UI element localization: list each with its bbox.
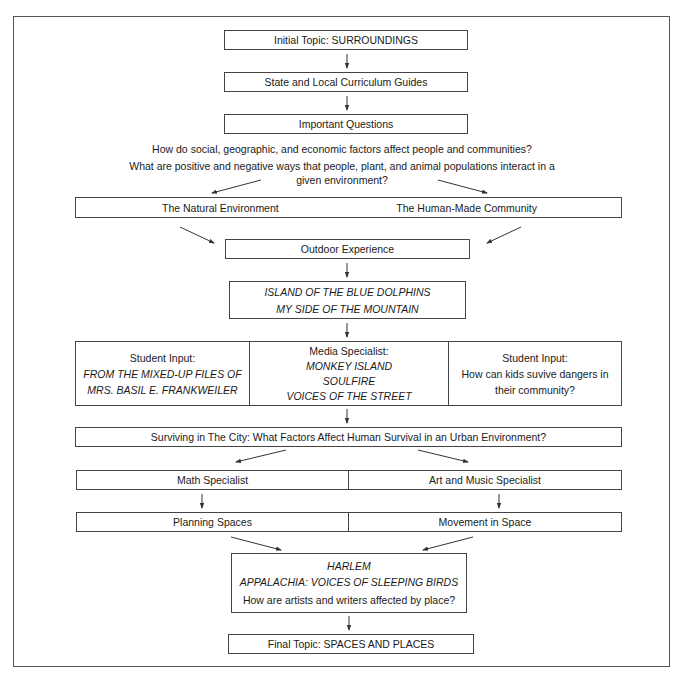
outdoor-experience-label: Outdoor Experience [301, 242, 394, 256]
important-questions-box: Important Questions [224, 114, 468, 134]
natural-environment-label: The Natural Environment [162, 201, 279, 215]
specialists-box: Math Specialist Art and Music Specialist [76, 470, 622, 490]
important-questions-label: Important Questions [299, 117, 394, 131]
books-box-1: ISLAND OF THE BLUE DOLPHINS MY SIDE OF T… [229, 281, 466, 319]
inputs-box: Student Input: FROM THE MIXED-UP FILES O… [75, 341, 622, 406]
book-voices-of-the-street: VOICES OF THE STREET [286, 389, 411, 403]
book-mixed-up-files-line-2: MRS. BASIL E. FRANKWEILER [87, 383, 237, 397]
final-topic-label: Final Topic: SPACES AND PLACES [268, 637, 435, 651]
student-input-right: Student Input: How can kids suvive dange… [448, 342, 621, 405]
math-specialist-label: Math Specialist [177, 473, 248, 487]
media-specialist: Media Specialist: MONKEY ISLAND SOULFIRE… [249, 342, 448, 405]
guiding-questions: How do social, geographic, and economic … [60, 142, 624, 187]
books-box-2: HARLEM APPALACHIA: VOICES OF SLEEPING BI… [231, 553, 467, 613]
book-my-side-of-mountain: MY SIDE OF THE MOUNTAIN [276, 302, 418, 316]
student-input-left: Student Input: FROM THE MIXED-UP FILES O… [76, 342, 249, 405]
question-2-line-2: given environment? [60, 173, 624, 187]
student-input-left-heading: Student Input: [130, 351, 195, 365]
art-music-specialist: Art and Music Specialist [348, 471, 621, 489]
activities-box: Planning Spaces Movement in Space [76, 512, 622, 532]
book-appalachia: APPALACHIA: VOICES OF SLEEPING BIRDS [240, 575, 458, 589]
surviving-city-label: Surviving in The City: What Factors Affe… [151, 430, 546, 444]
curriculum-guides-label: State and Local Curriculum Guides [265, 75, 428, 89]
initial-topic-box: Initial Topic: SURROUNDINGS [224, 30, 468, 50]
math-specialist: Math Specialist [77, 471, 348, 489]
student-question-line-1: How can kids suvive dangers in [461, 367, 608, 381]
question-2-line-1: What are positive and negative ways that… [60, 159, 624, 173]
movement-in-space-label: Movement in Space [439, 515, 532, 529]
media-specialist-heading: Media Specialist: [309, 344, 388, 358]
final-topic-box: Final Topic: SPACES AND PLACES [228, 634, 474, 654]
curriculum-guides-box: State and Local Curriculum Guides [224, 72, 468, 92]
environment-box: The Natural Environment The Human-Made C… [75, 197, 622, 218]
planning-spaces-label: Planning Spaces [173, 515, 252, 529]
book-monkey-island: MONKEY ISLAND [306, 359, 392, 373]
book-island-blue-dolphins: ISLAND OF THE BLUE DOLPHINS [264, 285, 430, 299]
human-made-community-label: The Human-Made Community [396, 201, 537, 215]
artists-writers-question: How are artists and writers affected by … [243, 593, 455, 607]
surviving-city-box: Surviving in The City: What Factors Affe… [75, 427, 622, 447]
initial-topic-label: Initial Topic: SURROUNDINGS [274, 33, 418, 47]
question-1: How do social, geographic, and economic … [60, 142, 624, 156]
planning-spaces: Planning Spaces [77, 513, 348, 531]
movement-in-space: Movement in Space [348, 513, 621, 531]
student-input-right-heading: Student Input: [502, 351, 567, 365]
book-soulfire: SOULFIRE [323, 374, 376, 388]
outdoor-experience-box: Outdoor Experience [225, 239, 470, 259]
art-music-specialist-label: Art and Music Specialist [429, 473, 541, 487]
book-harlem: HARLEM [327, 559, 371, 573]
student-question-line-2: their community? [495, 383, 575, 397]
book-mixed-up-files-line-1: FROM THE MIXED-UP FILES OF [83, 367, 241, 381]
